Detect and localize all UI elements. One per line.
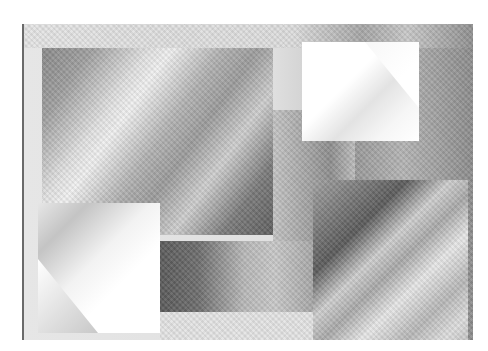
artwork-canvas: Abstract grayscale composition of overla… — [22, 24, 473, 340]
lower-middle-dark-band — [160, 241, 313, 312]
bottom-right-diagonal-rectangle — [313, 180, 468, 340]
lower-middle-light-band — [160, 312, 313, 340]
